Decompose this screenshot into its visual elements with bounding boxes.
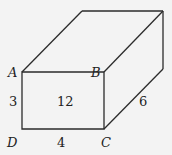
vertex-label-a: A	[7, 65, 17, 80]
face-area: 12	[57, 94, 74, 109]
edge-b-top-back	[104, 11, 163, 72]
edge-c-back	[104, 69, 163, 129]
vertex-label-d: D	[6, 135, 18, 150]
edge-a-top-back	[22, 11, 82, 72]
side-length-ad: 3	[9, 94, 17, 109]
vertex-label-c: C	[101, 135, 111, 150]
depth-length: 6	[139, 94, 147, 109]
vertex-label-b: B	[90, 65, 101, 80]
prism-diagram: A B C D 3 4 6 12	[0, 0, 172, 155]
side-length-dc: 4	[57, 135, 65, 150]
